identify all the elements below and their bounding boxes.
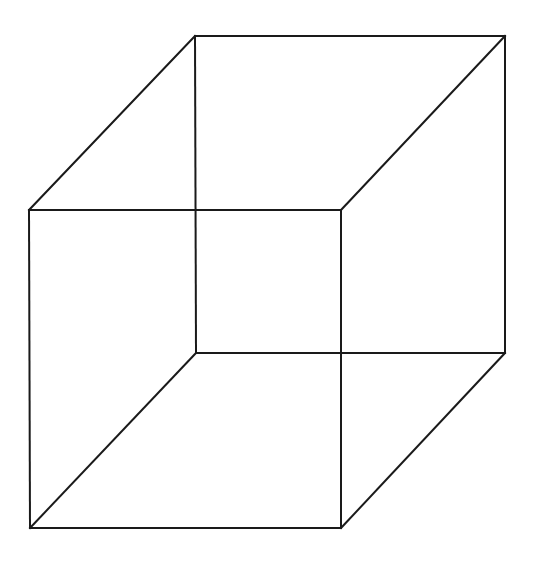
connecting-edge-top-left	[29, 36, 195, 210]
connecting-edge-top-right	[341, 36, 505, 210]
necker-cube-figure	[0, 0, 538, 565]
connecting-edge-bottom-right	[341, 353, 505, 528]
cube-connecting-edges	[29, 36, 505, 528]
figure-canvas	[0, 0, 538, 565]
front-face-left-edge	[29, 210, 30, 528]
connecting-edge-bottom-left	[30, 353, 196, 528]
cube-back-square	[195, 36, 505, 353]
back-face-left-edge	[195, 36, 196, 353]
